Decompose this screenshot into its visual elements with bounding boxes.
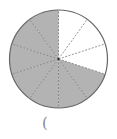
fraction-circle [0, 0, 117, 139]
answer-blank-paren: ( [42, 116, 48, 131]
center-point [58, 58, 60, 60]
